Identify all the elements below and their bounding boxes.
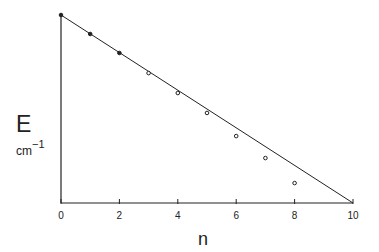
data-point xyxy=(176,91,180,95)
x-tick-label: 2 xyxy=(117,210,123,221)
data-point xyxy=(88,32,92,36)
y-axis-label: E xyxy=(16,111,31,137)
y-axis-unit: cm−1 xyxy=(16,138,45,158)
x-tick-label: 8 xyxy=(292,210,298,221)
x-tick-label: 0 xyxy=(58,210,64,221)
y-unit-base: cm xyxy=(16,144,32,158)
data-point xyxy=(118,51,122,55)
data-point xyxy=(147,71,151,75)
data-point xyxy=(293,181,297,185)
data-points xyxy=(59,13,296,185)
x-tick-label: 4 xyxy=(175,210,181,221)
linear-reference-line xyxy=(61,15,353,203)
data-point xyxy=(234,134,238,138)
x-axis-label: n xyxy=(198,229,208,249)
data-point xyxy=(59,13,63,17)
x-ticks: 0246810 xyxy=(58,199,359,221)
data-point xyxy=(205,111,209,115)
y-unit-exponent: −1 xyxy=(32,138,45,150)
energy-vs-n-chart: 0246810 E cm−1 n xyxy=(0,0,379,252)
x-tick-label: 10 xyxy=(347,210,359,221)
x-tick-label: 6 xyxy=(233,210,239,221)
data-point xyxy=(264,156,268,160)
